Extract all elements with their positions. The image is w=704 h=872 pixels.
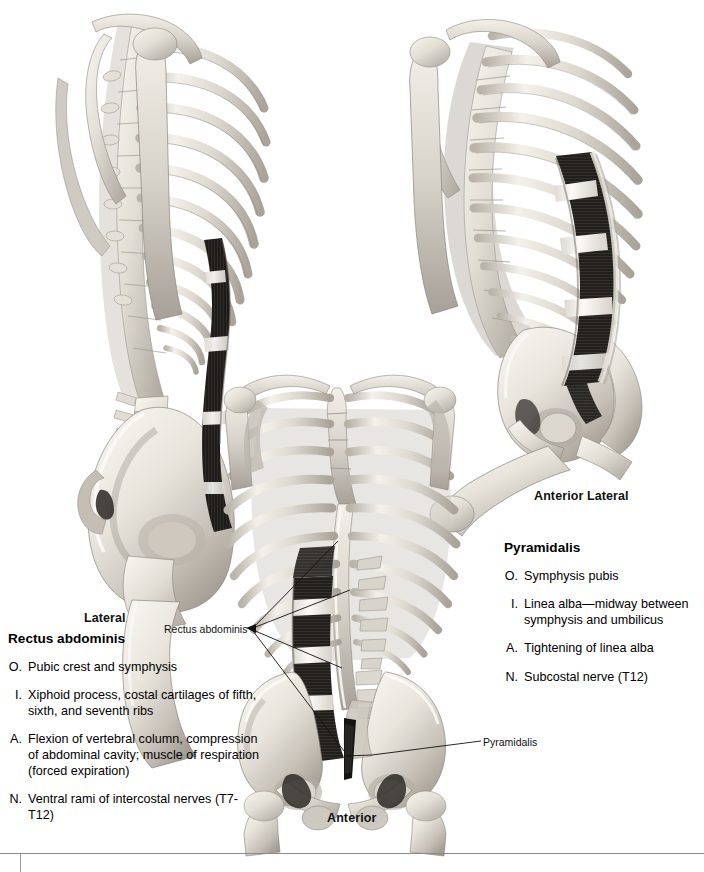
muscle-name-heading: Rectus abdominis xyxy=(8,631,260,647)
attribute-value-insertion: Xiphoid process, costal cartilages of fi… xyxy=(28,688,260,719)
muscle-attribute-nerve: N. Subcostal nerve (T12) xyxy=(504,670,700,686)
view-caption-anterior-lateral: Anterior Lateral xyxy=(534,489,629,503)
muscle-attribute-origin: O. Symphysis pubis xyxy=(504,569,700,585)
muscle-attribute-action: A. Flexion of vertebral column, compress… xyxy=(8,732,260,779)
attribute-value-origin: Symphysis pubis xyxy=(524,569,700,585)
footer-divider xyxy=(0,853,704,854)
footer-margin-tick xyxy=(20,854,21,872)
view-caption-lateral: Lateral xyxy=(84,611,126,625)
muscle-attribute-nerve: N. Ventral rami of intercostal nerves (T… xyxy=(8,792,260,823)
muscle-name-heading: Pyramidalis xyxy=(504,540,700,556)
muscle-description-rectus-abdominis: Rectus abdominis O. Pubic crest and symp… xyxy=(8,631,260,836)
muscle-attribute-insertion: I. Linea alba—midway between symphysis a… xyxy=(504,597,700,628)
attribute-key-insertion: I. xyxy=(8,688,28,719)
attribute-key-origin: O. xyxy=(504,569,524,585)
attribute-key-nerve: N. xyxy=(8,792,28,823)
attribute-value-nerve: Subcostal nerve (T12) xyxy=(524,670,700,686)
view-caption-anterior: Anterior xyxy=(327,811,376,825)
attribute-key-action: A. xyxy=(504,641,524,657)
leader-label-pyramidalis: Pyramidalis xyxy=(483,736,537,748)
attribute-key-action: A. xyxy=(8,732,28,779)
attribute-key-nerve: N. xyxy=(504,670,524,686)
attribute-value-action: Tightening of linea alba xyxy=(524,641,700,657)
attribute-value-action: Flexion of vertebral column, compression… xyxy=(28,732,260,779)
attribute-key-origin: O. xyxy=(8,660,28,676)
muscle-attribute-origin: O. Pubic crest and symphysis xyxy=(8,660,260,676)
attribute-value-nerve: Ventral rami of intercostal nerves (T7-T… xyxy=(28,792,260,823)
attribute-key-insertion: I. xyxy=(504,597,524,628)
pelvis-anterior-lateral xyxy=(498,327,642,462)
muscle-attribute-insertion: I. Xiphoid process, costal cartilages of… xyxy=(8,688,260,719)
attribute-value-insertion: Linea alba—midway between symphysis and … xyxy=(524,597,700,628)
attribute-value-origin: Pubic crest and symphysis xyxy=(28,660,260,676)
muscle-attribute-action: A. Tightening of linea alba xyxy=(504,641,700,657)
muscle-description-pyramidalis: Pyramidalis O. Symphysis pubis I. Linea … xyxy=(504,540,700,699)
